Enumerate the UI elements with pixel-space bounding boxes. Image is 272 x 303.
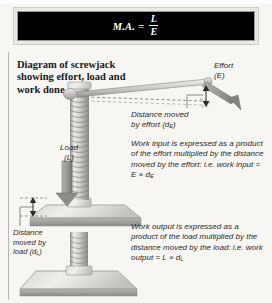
work-output-paragraph: Work output is expressed as a product of… xyxy=(131,222,267,265)
page-top-edge xyxy=(0,0,272,4)
effort-arrow xyxy=(202,82,241,110)
load-label-line2: (L) xyxy=(47,153,91,163)
effort-travel-leader xyxy=(187,95,203,108)
load-travel-arrow xyxy=(20,197,47,226)
mechanical-advantage-formula: M.A. = L E xyxy=(113,15,160,38)
load-label: Load (L) xyxy=(47,143,91,164)
effort-travel-arrow xyxy=(203,85,210,107)
formula-numerator: L xyxy=(149,14,159,25)
screwjack-diagram-page: M.A. = L E Diagram of screwjack showing … xyxy=(0,0,272,303)
diagram-title: Diagram of screwjack showing effort, loa… xyxy=(17,59,137,96)
page-gutter-rule xyxy=(8,52,9,300)
distance-moved-by-load-label: Distancemoved byload (dL) xyxy=(13,228,65,259)
formula-fraction: L E xyxy=(148,14,159,37)
formula-lhs: M.A. xyxy=(113,21,135,32)
distance-moved-by-effort-label: Distance movedby effort (dE) xyxy=(131,110,209,132)
effort-label-line1: Effort xyxy=(214,61,264,71)
effort-label-line2: (E) xyxy=(214,71,264,81)
formula-banner: M.A. = L E xyxy=(13,7,259,45)
effort-label: Effort (E) xyxy=(214,61,264,82)
handle-bar-ghost xyxy=(86,97,209,107)
base-plate xyxy=(20,271,137,296)
formula-banner-inner: M.A. = L E xyxy=(17,11,255,41)
lifting-platform xyxy=(30,198,141,226)
screw-shaft-lower xyxy=(66,232,92,275)
load-label-line1: Load xyxy=(47,143,91,153)
formula-equals: = xyxy=(138,20,145,32)
formula-denominator: E xyxy=(148,26,159,37)
screw-shaft-main xyxy=(68,82,91,200)
load-arrow xyxy=(56,161,78,206)
work-input-paragraph: Work input is expressed as a product of … xyxy=(131,139,267,182)
